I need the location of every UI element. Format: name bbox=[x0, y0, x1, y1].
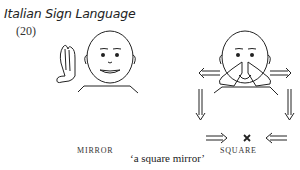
signer-mirror-illustration bbox=[40, 25, 150, 95]
sign-label-square: SQUARE bbox=[220, 146, 257, 155]
sign-label-mirror: MIRROR bbox=[77, 146, 113, 155]
translation-gloss: ‘a square mirror’ bbox=[130, 152, 205, 164]
example-number: (20) bbox=[16, 24, 36, 39]
language-title: Italian Sign Language bbox=[4, 6, 135, 21]
signer-square-illustration bbox=[190, 25, 300, 155]
